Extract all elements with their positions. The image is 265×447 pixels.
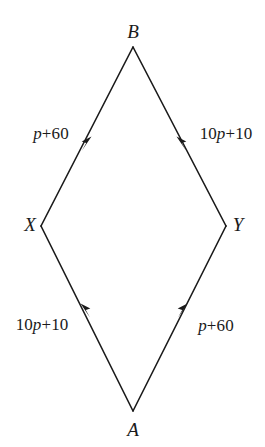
edge-label-ay-variable: p: [198, 316, 207, 335]
edge-label-yb-variable: p: [217, 124, 226, 143]
vertex-label-x: X: [24, 215, 36, 234]
vertex-label-y: Y: [233, 215, 244, 234]
edge-label-x-to-b: p+60: [33, 125, 69, 142]
edge-label-yb-prefix: 10: [200, 124, 217, 143]
edge-label-ax-suffix: +10: [41, 315, 68, 334]
edge-label-ax-variable: p: [33, 315, 42, 334]
geometry-figure: B X Y A p+60 10p+10 10p+10 p+60: [0, 0, 265, 447]
edge-label-ay-suffix: +60: [207, 316, 234, 335]
edge-label-xb-suffix: +60: [42, 124, 69, 143]
arrowhead-a-to-y: [178, 304, 188, 318]
edge-label-y-to-b: 10p+10: [200, 125, 253, 142]
vertex-label-a: A: [127, 420, 139, 439]
edge-label-a-to-x: 10p+10: [16, 316, 69, 333]
edge-label-ax-prefix: 10: [16, 315, 33, 334]
rhombus-diagram-canvas: [0, 0, 265, 447]
edge-label-xb-variable: p: [33, 124, 42, 143]
edge-label-a-to-y: p+60: [198, 317, 234, 334]
edge-label-yb-suffix: +10: [225, 124, 252, 143]
vertex-label-b: B: [127, 22, 139, 41]
